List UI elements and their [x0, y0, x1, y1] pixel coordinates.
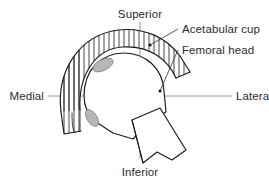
hip-diagram-svg: Superior Inferior Medial Lateral Acetabu…: [0, 0, 269, 183]
femoral-head-label: Femoral head: [182, 44, 254, 56]
acetabular-cup-marker-dot: [149, 44, 152, 47]
medial-label: Medial: [10, 90, 44, 102]
superior-label: Superior: [118, 8, 162, 20]
hip-diagram-figure: Superior Inferior Medial Lateral Acetabu…: [0, 0, 269, 183]
acetabular-cup-label: Acetabular cup: [182, 23, 260, 35]
lateral-label: Lateral: [236, 90, 269, 102]
femoral-head-marker-dot: [159, 90, 162, 93]
inferior-label: Inferior: [122, 166, 159, 178]
